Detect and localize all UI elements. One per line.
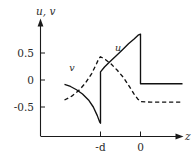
figure-container: 0.5 0 -0.5 -d 0 u, v z v u — [0, 0, 195, 162]
curve-label-u: u — [115, 42, 121, 53]
curve-v-dashed — [65, 57, 183, 102]
x-axis-title: z — [184, 130, 191, 142]
x-tick-label-0: -d — [95, 141, 106, 153]
y-ticks — [41, 53, 46, 107]
x-ticks — [101, 132, 141, 137]
curve-label-v: v — [69, 62, 75, 73]
y-axis-group — [38, 19, 44, 137]
y-axis-arrowhead — [38, 19, 44, 27]
y-tick-label-1: 0 — [27, 74, 34, 86]
x-axis-group — [41, 134, 184, 140]
y-axis-title: u, v — [36, 5, 55, 17]
curve-u-solid — [65, 34, 183, 123]
plot-svg: 0.5 0 -0.5 -d 0 u, v z v u — [0, 0, 195, 162]
y-tick-label-0: 0.5 — [17, 47, 34, 59]
x-axis-arrowhead — [176, 134, 184, 140]
x-tick-label-1: 0 — [137, 141, 144, 153]
y-tick-label-2: -0.5 — [14, 101, 34, 113]
